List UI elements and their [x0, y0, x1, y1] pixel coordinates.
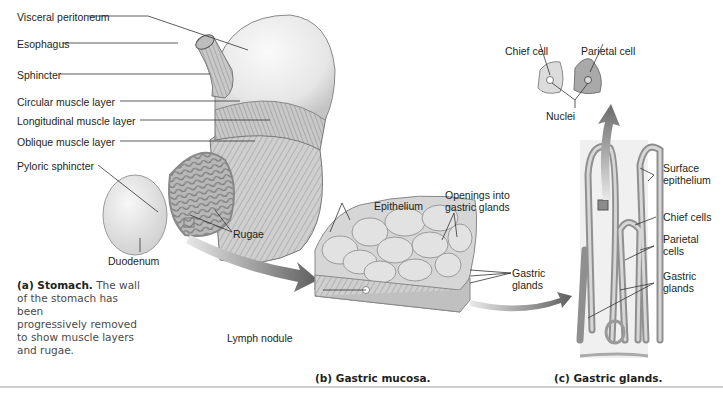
- bottom-divider: [0, 386, 723, 388]
- label-sphincter: Sphincter: [17, 69, 61, 81]
- label-gastric-glands-b-1: Gastric: [512, 267, 545, 279]
- caption-c: (c) Gastric glands.: [554, 372, 663, 384]
- arrow-b-to-c: [470, 292, 572, 311]
- label-rugae: Rugae: [233, 228, 264, 240]
- label-chief-cells: Chief cells: [663, 211, 711, 223]
- label-parietal-cells-2: cells: [663, 245, 684, 257]
- label-longitudinal-muscle: Longitudinal muscle layer: [17, 115, 135, 127]
- stomach-drawing: [103, 15, 335, 263]
- caption-a-line-5: and rugae.: [17, 344, 74, 356]
- caption-a-line-4: to show muscle layers: [17, 331, 134, 343]
- label-nuclei: Nuclei: [546, 110, 575, 122]
- label-lymph-nodule: Lymph nodule: [227, 332, 293, 344]
- label-parietal-cell: Parietal cell: [581, 45, 635, 57]
- label-surface-epithelium-2: epithelium: [663, 174, 711, 186]
- label-visceral-peritoneum: Visceral peritoneum: [17, 11, 110, 23]
- mucosa-block: [315, 196, 477, 312]
- label-surface-epithelium-1: Surface: [663, 162, 699, 174]
- label-circular-muscle: Circular muscle layer: [17, 96, 115, 108]
- label-gastric-glands-b-2: glands: [512, 279, 543, 291]
- caption-a-line-2: of the stomach has been: [17, 292, 118, 317]
- label-oblique-muscle: Oblique muscle layer: [17, 136, 115, 148]
- label-epithelium: Epithelium: [374, 200, 423, 212]
- caption-a-line-1: The wall: [96, 279, 140, 291]
- label-duodenum: Duodenum: [108, 255, 159, 267]
- label-openings-line2: gastric glands: [445, 201, 510, 213]
- caption-b: (b) Gastric mucosa.: [315, 372, 431, 384]
- label-parietal-cells-1: Parietal: [663, 233, 699, 245]
- caption-a-bold: (a) Stomach.: [17, 279, 93, 291]
- label-gastric-glands-c-2: glands: [663, 282, 694, 294]
- caption-a-line-3: progressively removed: [17, 318, 137, 330]
- caption-a: (a) Stomach. The wall of the stomach has…: [17, 279, 147, 357]
- label-pyloric-sphincter: Pyloric sphincter: [17, 160, 94, 172]
- label-openings-line1: Openings into: [445, 189, 510, 201]
- label-chief-cell: Chief cell: [505, 45, 548, 57]
- label-gastric-glands-c-1: Gastric: [663, 270, 696, 282]
- label-esophagus: Esophagus: [17, 38, 70, 50]
